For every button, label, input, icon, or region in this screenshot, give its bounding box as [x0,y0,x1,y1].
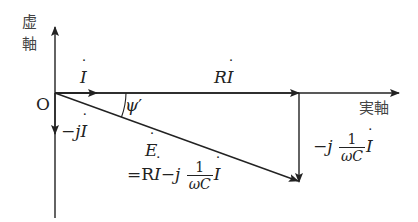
resistive-drop-prefix: R [214,67,227,87]
capacitive-fraction: 1 ωC [339,132,365,163]
phasor-diagram: 虚 軸 実軸 O I RI −jI ψ′ E =RI−j 1 ωC I −j 1… [0,0,418,222]
emf-frac-den: ωC [187,175,213,192]
capacitive-symbol: I [366,138,373,155]
emf-eq-prefix: =R [127,164,154,184]
resistive-drop-symbol: I [227,69,234,86]
angle-prime: ′ [138,95,142,115]
emf-eq-mid: −j [161,164,181,184]
capacitive-prefix: −j [313,136,333,156]
imaginary-axis-label-1: 虚 [22,15,37,30]
current-label: I [80,69,87,86]
angle-symbol: ψ [125,95,138,115]
resistive-drop-label: RI [214,69,234,86]
emf-frac-num: 1 [193,160,206,175]
emf-eq-symbol2: I [214,166,221,183]
angle-label: ψ′ [125,97,142,114]
capacitive-frac-den: ωC [339,147,365,164]
current-symbol: I [80,69,87,86]
neg-j-current-label: −jI [61,123,87,140]
neg-j-prefix: −j [61,121,81,141]
emf-eq-symbol1: I [154,166,161,183]
emf-eq-fraction: 1 ωC [187,160,213,191]
capacitive-drop-label: −j 1 ωC I [313,132,373,163]
emf-equation: =RI−j 1 ωC I [127,160,221,191]
imaginary-axis-label-2: 軸 [22,37,37,52]
origin-label: O [36,96,50,113]
capacitive-frac-num: 1 [346,132,359,147]
neg-j-symbol: I [81,123,88,140]
real-axis-label: 実軸 [359,101,389,116]
